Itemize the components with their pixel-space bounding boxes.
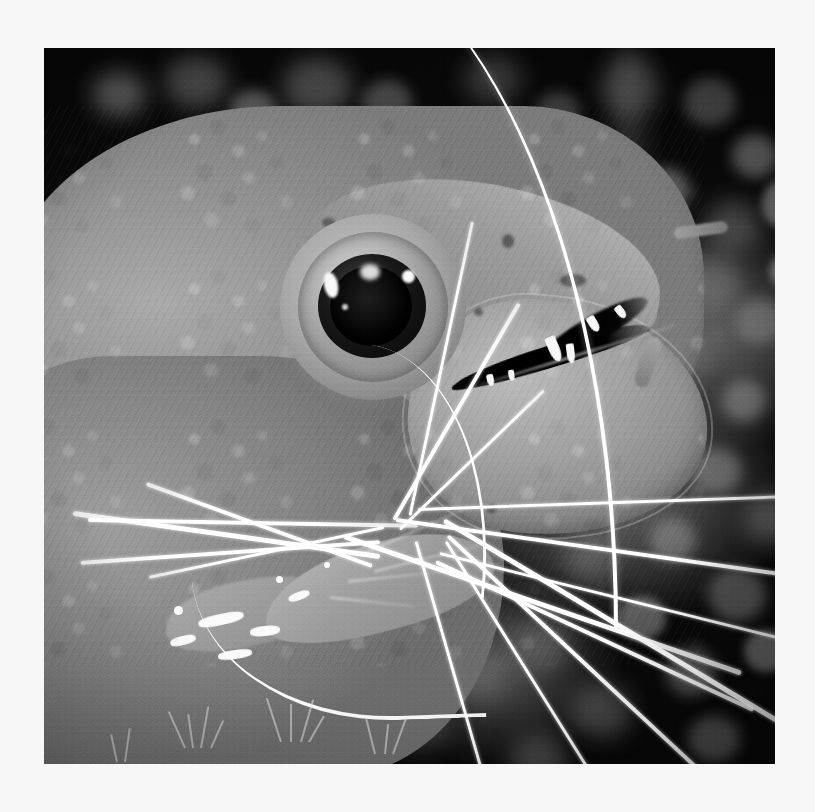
- coral-blob: [164, 56, 228, 108]
- eye-glint-edge: [402, 270, 415, 283]
- coral-blob: [708, 568, 766, 622]
- coral-blob: [688, 716, 740, 762]
- shrimp-dot: [276, 576, 283, 583]
- eye-glint-secondary: [360, 264, 380, 280]
- coral-blob: [722, 380, 766, 422]
- eye-glint-small: [342, 304, 348, 310]
- shrimp-dot: [174, 606, 183, 615]
- coral-blob: [572, 684, 632, 738]
- coral-blob: [732, 134, 775, 178]
- photograph: [44, 48, 775, 764]
- coral-blob: [464, 54, 522, 104]
- eel-skin-spot: [502, 234, 514, 248]
- shrimp-dot: [324, 562, 330, 568]
- hydroid-sprig: [290, 704, 292, 742]
- eel-skin-spot: [560, 274, 586, 287]
- page-canvas: [0, 0, 815, 812]
- eel-skin-spot: [474, 308, 483, 316]
